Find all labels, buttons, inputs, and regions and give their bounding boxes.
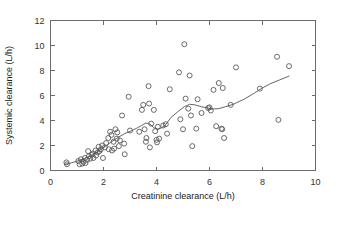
- trend-line-layer: [65, 76, 289, 164]
- x-tick-label-2: 2: [101, 177, 106, 187]
- data-point: [122, 152, 127, 157]
- data-point: [220, 86, 225, 91]
- plot-frame: [51, 21, 316, 171]
- data-point: [187, 73, 192, 78]
- axis-labels-layer: 0246810024681012Creatinine clearance (L/…: [4, 16, 321, 201]
- data-point: [139, 107, 144, 112]
- data-point: [182, 42, 187, 47]
- data-point: [109, 132, 114, 137]
- y-tick-label-12: 12: [34, 16, 44, 26]
- data-point: [137, 129, 142, 134]
- data-point: [287, 64, 292, 69]
- data-point: [181, 127, 186, 132]
- data-point: [165, 131, 170, 136]
- data-point: [216, 81, 221, 86]
- data-point: [141, 102, 146, 107]
- trend-line: [65, 76, 289, 164]
- x-axis-title: Creatinine clearance (L/h): [131, 191, 235, 201]
- data-point: [147, 145, 152, 150]
- data-point: [120, 113, 125, 118]
- scatter-plot-figure: 0246810024681012Creatinine clearance (L/…: [0, 0, 338, 234]
- data-point: [188, 113, 193, 118]
- data-point: [275, 54, 280, 59]
- y-tick-label-8: 8: [39, 66, 44, 76]
- y-axis-title: Systemic clearance (L/h): [4, 46, 14, 145]
- data-point: [100, 156, 105, 161]
- y-tick-label-10: 10: [34, 41, 44, 51]
- y-tick-label-6: 6: [39, 91, 44, 101]
- data-point: [167, 87, 172, 92]
- data-point: [122, 141, 127, 146]
- x-tick-label-8: 8: [260, 177, 265, 187]
- x-tick-label-4: 4: [154, 177, 159, 187]
- y-tick-label-0: 0: [39, 166, 44, 176]
- plot-canvas: 0246810024681012Creatinine clearance (L/…: [0, 0, 338, 234]
- data-point: [108, 129, 113, 134]
- y-tick-label-4: 4: [39, 116, 44, 126]
- data-point: [199, 111, 204, 116]
- data-point: [183, 96, 188, 101]
- data-point: [151, 107, 156, 112]
- data-point: [211, 87, 216, 92]
- data-points-layer: [64, 42, 292, 167]
- axes-layer: [51, 21, 316, 171]
- data-point: [190, 144, 195, 149]
- data-point: [116, 144, 121, 149]
- data-point: [106, 136, 111, 141]
- data-point: [194, 126, 199, 131]
- x-tick-label-0: 0: [48, 177, 53, 187]
- data-point: [147, 101, 152, 106]
- data-point: [222, 136, 227, 141]
- x-tick-label-6: 6: [207, 177, 212, 187]
- data-point: [186, 106, 191, 111]
- data-point: [177, 70, 182, 75]
- data-point: [276, 117, 281, 122]
- data-point: [142, 127, 147, 132]
- x-tick-label-10: 10: [310, 177, 320, 187]
- ticks-layer: [51, 21, 316, 171]
- data-point: [214, 124, 219, 129]
- data-point: [146, 84, 151, 89]
- data-point: [178, 117, 183, 122]
- data-point: [126, 94, 131, 99]
- data-point: [195, 97, 200, 102]
- y-tick-label-2: 2: [39, 141, 44, 151]
- data-point: [234, 65, 239, 70]
